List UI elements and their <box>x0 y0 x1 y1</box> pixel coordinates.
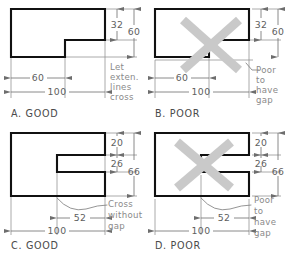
panel-b-dim-vertical-32: 32 <box>255 9 268 40</box>
panel-c-note: Cross without gap <box>108 199 143 231</box>
panel-c-dim-value-20: 20 <box>111 137 124 148</box>
panel-c-dim-vertical-20: 20 <box>111 133 124 155</box>
panel-d-dim-value-66: 66 <box>272 166 285 177</box>
panel-b-dim-value-32: 32 <box>255 19 268 30</box>
panel-a-dim-horizontal-60: 60 <box>11 72 65 83</box>
panel-c-note-leader <box>57 198 107 210</box>
panel-b-x-mark <box>183 20 239 70</box>
panel-b-dim-value-60h: 60 <box>176 72 189 83</box>
panel-a-note-line-3: lines <box>110 82 132 92</box>
panel-c-note-line-2: without <box>108 210 143 220</box>
panel-b-dim-value-100-alt: 100 <box>192 86 211 97</box>
panel-b-note: Poor to have gap <box>256 65 278 105</box>
panel-a-dim-horizontal-100: 100 <box>11 86 105 97</box>
panel-d-dim-vertical-20: 20 <box>255 133 268 155</box>
panel-d-note-line-3: have <box>254 217 276 227</box>
panel-d-poor: 20 26 66 52 <box>155 133 284 251</box>
panel-c-caption: C. GOOD <box>11 240 59 251</box>
panel-b-note-line-4: gap <box>256 95 273 105</box>
panel-a-note-line-4: cross <box>110 92 134 102</box>
panel-a-dim-value-60v: 60 <box>128 26 141 37</box>
panel-b-caption: B. POOR <box>155 108 200 119</box>
panel-d-note-line-1: Poor <box>254 195 274 205</box>
panel-c-object-outline <box>11 133 105 196</box>
panel-a-dim-vertical-32: 32 <box>111 9 124 40</box>
technical-drawing-canvas: 32 60 60 100 Let e <box>0 0 289 256</box>
panel-a-dim-vertical-60: 60 <box>128 9 141 57</box>
panel-a-note-line-2: exten. <box>110 72 139 82</box>
panel-c-note-line-3: gap <box>108 221 125 231</box>
panel-c-dim-value-52: 52 <box>74 212 87 223</box>
panel-d-note-leader <box>201 198 251 210</box>
panel-c-good: 20 26 66 52 <box>11 133 143 251</box>
panel-b-dim-horizontal-60: 60 <box>155 72 209 83</box>
panel-d-dim-vertical-26: 26 <box>255 155 268 172</box>
figure-sheet: 32 60 60 100 Let e <box>0 0 289 256</box>
panel-d-dim-horizontal-100: 100 <box>155 225 249 236</box>
panel-d-note: Poor to have gap <box>254 195 276 238</box>
panel-a-caption: A. GOOD <box>11 108 58 119</box>
panel-c-dim-value-66: 66 <box>128 166 141 177</box>
panel-d-note-line-4: gap <box>254 228 271 238</box>
panel-c-dim-vertical-26: 26 <box>111 155 124 172</box>
panel-d-x-mark <box>177 142 231 188</box>
panel-c-dim-horizontal-100: 100 <box>11 225 105 236</box>
panel-b-note-line-3: have <box>256 85 278 95</box>
panel-c-note-line-1: Cross <box>108 199 133 209</box>
panel-d-dim-value-20: 20 <box>255 137 268 148</box>
panel-a-dim-value-100: 100 <box>48 86 67 97</box>
panel-d-dim-horizontal-52: 52 <box>201 212 249 223</box>
panel-a-dim-value-60h: 60 <box>32 72 45 83</box>
panel-d-dim-vertical-66: 66 <box>272 133 285 196</box>
panel-a-note: Let exten. lines cross <box>110 62 139 102</box>
panel-d-dim-value-52: 52 <box>218 212 231 223</box>
panel-c-dim-value-100: 100 <box>48 225 67 236</box>
panel-a-object-outline <box>11 9 105 57</box>
panel-c-dim-value-26: 26 <box>111 158 124 169</box>
panel-b-note-line-1: Poor <box>256 65 276 75</box>
panel-c-dim-vertical-66: 66 <box>128 133 141 196</box>
panel-d-dim-value-26: 26 <box>255 158 268 169</box>
panel-b-poor: 32 60 60 100 <box>155 9 284 119</box>
panel-d-caption: D. POOR <box>155 240 201 251</box>
panel-a-dim-value-32: 32 <box>111 19 124 30</box>
panel-b-note-line-2: to <box>256 75 265 85</box>
panel-a-note-line-1: Let <box>110 62 125 72</box>
panel-b-dim-vertical-60: 60 <box>272 9 285 57</box>
panel-b-dim-value-60v: 60 <box>272 26 285 37</box>
panel-d-note-line-2: to <box>254 206 263 216</box>
panel-c-dim-horizontal-52: 52 <box>57 212 105 223</box>
panel-b-dim-horizontal-100: 100 <box>155 86 249 97</box>
panel-a-good: 32 60 60 100 Let e <box>11 9 140 119</box>
panel-d-dim-value-100: 100 <box>192 225 211 236</box>
